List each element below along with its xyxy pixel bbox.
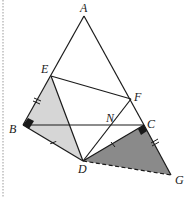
label-n: N [105, 111, 115, 125]
shaded-triangle-ebd [23, 76, 83, 161]
label-b: B [9, 122, 17, 136]
segment-ac [84, 16, 144, 125]
label-c: C [147, 117, 156, 131]
label-g: G [175, 173, 184, 187]
label-a: A [79, 1, 88, 15]
label-d: D [77, 162, 87, 176]
label-f: F [133, 90, 142, 104]
label-e: E [40, 62, 49, 76]
geometry-diagram: A E F B N C D G [0, 0, 195, 197]
